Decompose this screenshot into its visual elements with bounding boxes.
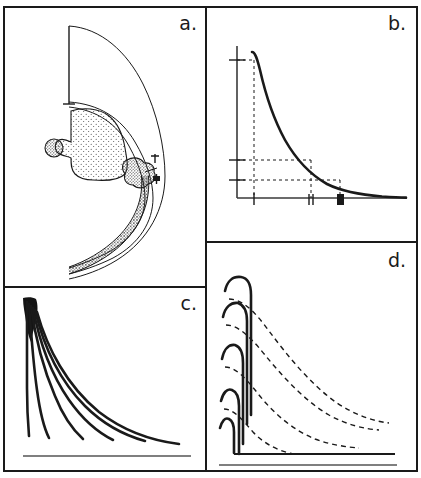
panel-label-c: c. xyxy=(181,294,198,313)
panel-b-drawing xyxy=(207,8,418,243)
marker-tick-upper xyxy=(151,154,159,163)
figure-container: a. xyxy=(0,0,421,478)
x-tick-II xyxy=(309,194,313,205)
decay-curve xyxy=(252,52,406,198)
panel-label-b: b. xyxy=(388,14,406,33)
stippled-band-edge-outer xyxy=(69,176,149,274)
panel-c-drawing xyxy=(5,288,207,470)
panel-b: b. xyxy=(207,8,418,243)
panel-d-drawing xyxy=(207,243,418,470)
panel-label-a: a. xyxy=(179,14,197,33)
nodule-left xyxy=(45,139,63,157)
panel-c: c. xyxy=(5,288,207,470)
peak-5-tail xyxy=(229,299,389,423)
panel-d: d. xyxy=(207,243,418,470)
panel-a: a. xyxy=(5,8,207,288)
peak-3-tail xyxy=(225,367,359,448)
stippled-band xyxy=(69,176,145,271)
panel-label-d: d. xyxy=(388,251,406,270)
curve-5 xyxy=(35,310,145,441)
panel-a-drawing xyxy=(5,8,207,288)
peak-1-rise xyxy=(220,418,234,453)
nodule-right xyxy=(123,158,156,188)
x-tick-III xyxy=(337,194,344,205)
